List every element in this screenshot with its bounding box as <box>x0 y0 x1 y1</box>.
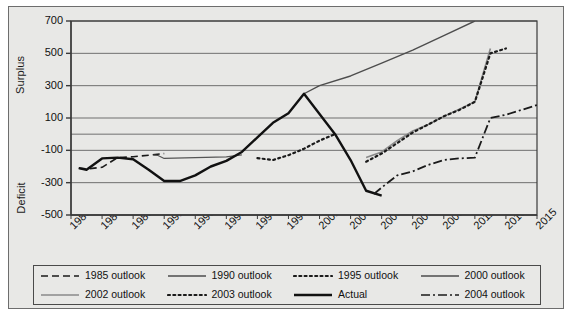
legend-item-1995-outlook[interactable]: 1995 outlook <box>287 270 414 281</box>
chart-plot-area <box>9 7 565 267</box>
chart-legend: 1985 outlook1990 outlook1995 outlook2000… <box>33 265 541 305</box>
legend-swatch-dashdot <box>420 290 460 300</box>
legend-label: 2003 outlook <box>212 289 272 300</box>
legend-label: 1985 outlook <box>85 270 145 281</box>
legend-label: 2004 outlook <box>465 289 525 300</box>
legend-label: 2002 outlook <box>85 289 145 300</box>
legend-swatch-dashed <box>40 271 80 281</box>
legend-item-2002-outlook[interactable]: 2002 outlook <box>34 289 161 300</box>
legend-label: Actual <box>338 289 367 300</box>
legend-item-2004-outlook[interactable]: 2004 outlook <box>414 289 541 300</box>
legend-swatch-solid <box>167 271 207 281</box>
chart-panel: Surplus Deficit 700500300100-100-300-500… <box>8 6 564 309</box>
legend-label: 1990 outlook <box>212 270 272 281</box>
legend-item-2000-outlook[interactable]: 2000 outlook <box>414 270 541 281</box>
legend-item-2003-outlook[interactable]: 2003 outlook <box>161 289 288 300</box>
legend-swatch-solid <box>420 271 460 281</box>
legend-item-1990-outlook[interactable]: 1990 outlook <box>161 270 288 281</box>
legend-label: 2000 outlook <box>465 270 525 281</box>
legend-label: 1995 outlook <box>338 270 398 281</box>
legend-swatch-solid <box>40 290 80 300</box>
chart-screenshot: Surplus Deficit 700500300100-100-300-500… <box>0 0 572 318</box>
legend-swatch-dotted <box>167 290 207 300</box>
legend-swatch-solid <box>293 290 333 300</box>
legend-item-actual[interactable]: Actual <box>287 289 414 300</box>
legend-swatch-dotted <box>293 271 333 281</box>
legend-item-1985-outlook[interactable]: 1985 outlook <box>34 270 161 281</box>
